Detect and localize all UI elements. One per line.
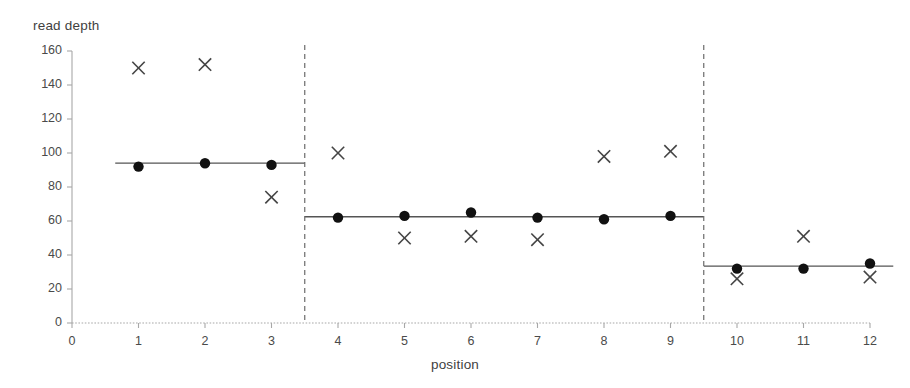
x-axis-tick-label: 6 bbox=[457, 334, 485, 348]
y-axis-tick-label: 60 bbox=[30, 213, 62, 227]
cross-markers-group bbox=[132, 58, 876, 285]
y-axis-tick-label: 80 bbox=[30, 179, 62, 193]
x-axis-tick-label: 0 bbox=[58, 334, 86, 348]
data-point-circle bbox=[798, 263, 808, 273]
read-depth-scatter-chart: read depth 020406080100120140160 0123456… bbox=[0, 0, 910, 388]
data-point-circle bbox=[732, 263, 742, 273]
y-axis-tick-label: 40 bbox=[30, 247, 62, 261]
data-point-circle bbox=[133, 161, 143, 171]
plot-area bbox=[0, 0, 910, 388]
data-point-circle bbox=[333, 212, 343, 222]
data-point-circle bbox=[532, 212, 542, 222]
y-axis-tick-label: 160 bbox=[30, 43, 62, 57]
x-axis-tick-label: 1 bbox=[125, 334, 153, 348]
data-point-circle bbox=[266, 160, 276, 170]
data-point-circle bbox=[865, 258, 875, 268]
x-axis-tick-label: 3 bbox=[258, 334, 286, 348]
data-point-circle bbox=[200, 158, 210, 168]
segment-levels-group bbox=[115, 163, 893, 266]
breakpoint-lines-group bbox=[305, 45, 704, 323]
x-axis-tick-label: 4 bbox=[324, 334, 352, 348]
x-axis-tick-label: 7 bbox=[524, 334, 552, 348]
y-axis-tick-label: 100 bbox=[30, 145, 62, 159]
data-point-circle bbox=[599, 214, 609, 224]
y-axis-tick-label: 20 bbox=[30, 281, 62, 295]
x-axis-tick-label: 12 bbox=[856, 334, 884, 348]
y-axis-tick-label: 0 bbox=[30, 315, 62, 329]
data-point-circle bbox=[399, 211, 409, 221]
circle-markers-group bbox=[133, 158, 875, 274]
x-axis-tick-label: 9 bbox=[657, 334, 685, 348]
x-axis-tick-label: 10 bbox=[723, 334, 751, 348]
x-axis-tick-label: 11 bbox=[790, 334, 818, 348]
data-point-circle bbox=[665, 211, 675, 221]
y-axis-tick-label: 120 bbox=[30, 111, 62, 125]
x-axis-tick-label: 8 bbox=[590, 334, 618, 348]
y-axis-tick-label: 140 bbox=[30, 77, 62, 91]
axes-group bbox=[67, 51, 870, 328]
x-axis-title: position bbox=[0, 357, 910, 372]
data-point-circle bbox=[466, 207, 476, 217]
x-axis-tick-label: 5 bbox=[391, 334, 419, 348]
x-axis-tick-label: 2 bbox=[191, 334, 219, 348]
